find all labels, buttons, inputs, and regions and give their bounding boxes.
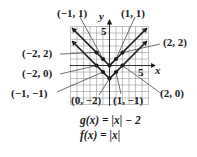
label-1-m1: (1, −1) — [113, 94, 143, 107]
label-0-m2: (0, −2) — [71, 94, 101, 107]
label-m1-1: (−1, 1) — [57, 7, 87, 20]
y-axis-label: y — [97, 10, 104, 22]
equation-f: f(x) = |x| — [80, 129, 120, 141]
x-axis-label: x — [154, 64, 161, 76]
label-1-1: (1, 1) — [121, 7, 145, 20]
label-m2-0: (−2, 0) — [22, 67, 52, 80]
x-tick-5: 5 — [138, 66, 144, 78]
y-tick-5: 5 — [101, 25, 107, 37]
label-m2-2: (−2, 2) — [22, 47, 52, 60]
label-m1-m1: (−1, −1) — [11, 87, 48, 100]
label-2-2: (2, 2) — [163, 36, 187, 49]
label-2-0: (2, 0) — [160, 87, 184, 100]
equation-g: g(x) = |x| − 2 — [80, 114, 141, 126]
